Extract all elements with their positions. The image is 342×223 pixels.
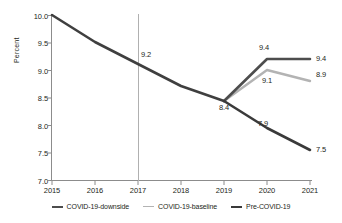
y-tick-marks [47,16,52,181]
legend-swatch-line-icon [231,206,242,208]
legend-item-covid-19-baseline[interactable]: COVID-19-baseline [143,203,217,210]
legend-swatch-line-icon [143,206,154,207]
legend-item-covid-19-downside[interactable]: COVID-19-downside [52,203,130,210]
legend-swatch-line-icon [52,206,63,208]
legend-label-pre-covid-19: Pre-COVID-19 [246,203,290,210]
x-tick-marks [52,181,310,185]
data-label-2020-downside: 9.4 [259,43,269,52]
data-label-2020-baseline: 9.1 [262,76,272,85]
plot-area [0,0,342,223]
line-chart: Percent 10.0 9.5 9.0 8.5 8.0 7.5 7.0 201… [0,0,342,223]
series-line-covid-19-baseline [224,70,310,101]
data-label-2021-downside: 9.4 [316,54,326,63]
data-label-2021-pre: 7.5 [316,145,326,154]
legend-label-covid-19-downside: COVID-19-downside [67,203,130,210]
data-label-2019-8-4: 8.4 [219,103,229,112]
chart-legend: COVID-19-downside COVID-19-baseline Pre-… [0,203,342,210]
data-label-2017-9-2: 9.2 [141,50,151,59]
legend-label-covid-19-baseline: COVID-19-baseline [158,203,217,210]
legend-item-pre-covid-19[interactable]: Pre-COVID-19 [231,203,290,210]
data-label-2021-baseline: 8.9 [316,70,326,79]
data-label-2020-pre: 7.9 [258,119,268,128]
